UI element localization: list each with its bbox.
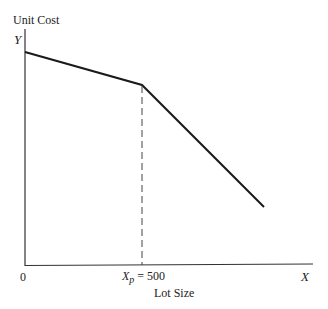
origin-label: 0 bbox=[20, 270, 26, 285]
breakpoint-value: = 500 bbox=[134, 269, 165, 283]
x-axis-title: Lot Size bbox=[154, 286, 194, 301]
breakpoint-label: Xp = 500 bbox=[122, 269, 165, 285]
y-axis-symbol: Y bbox=[14, 32, 21, 48]
unit-cost-line bbox=[25, 52, 264, 207]
chart-canvas bbox=[0, 0, 328, 309]
y-axis-title: Unit Cost bbox=[13, 13, 59, 28]
x-axis bbox=[25, 264, 313, 266]
x-axis-symbol: X bbox=[301, 269, 309, 285]
